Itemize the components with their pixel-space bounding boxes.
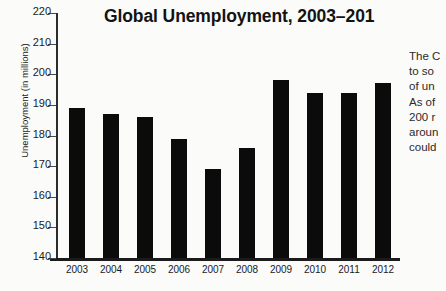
x-tick-label: 2012 [366, 264, 400, 275]
bar-2007 [205, 169, 221, 258]
bar-slot [332, 13, 366, 258]
x-tick-label: 2008 [230, 264, 264, 275]
y-axis-label: Unemployment (in millions) [19, 21, 30, 181]
y-tick-label: 180 [33, 128, 51, 140]
side-note-line: aroun [409, 125, 446, 140]
y-tick-label: 200 [33, 66, 51, 78]
bar-2011 [341, 93, 357, 258]
plot-area: 220210200190180170160150140 200320042005… [56, 13, 400, 258]
bar-slot [230, 13, 264, 258]
bar-slot [196, 13, 230, 258]
side-note-line: could [409, 140, 446, 155]
x-tick-label: 2011 [332, 264, 366, 275]
y-tick-label: 150 [33, 219, 51, 231]
side-note-line: The C [409, 49, 446, 64]
x-tick-label: 2009 [264, 264, 298, 275]
bar-slot [366, 13, 400, 258]
bar-slot [162, 13, 196, 258]
x-tick-label: 2003 [60, 264, 94, 275]
x-tick-label: 2005 [128, 264, 162, 275]
bar-2005 [137, 117, 153, 258]
x-tick-label: 2004 [94, 264, 128, 275]
bar-slot [264, 13, 298, 258]
bar-2008 [239, 148, 255, 258]
y-tick-label: 160 [33, 189, 51, 201]
bar-2004 [103, 114, 119, 258]
bar-2012 [375, 83, 391, 258]
bar-2003 [69, 108, 85, 258]
bar-series [56, 13, 400, 258]
y-tick-label: 220 [33, 5, 51, 17]
side-note-line: of un [409, 79, 446, 94]
bar-slot [128, 13, 162, 258]
x-axis-line [50, 258, 400, 261]
side-note-line: As of [409, 95, 446, 110]
side-note-text: The Cto soof unAs of200 rarouncould [409, 49, 446, 155]
y-tick-label: 190 [33, 97, 51, 109]
y-tick: 140 [56, 258, 57, 259]
x-tick-label: 2006 [162, 264, 196, 275]
x-tick-label: 2007 [196, 264, 230, 275]
y-tick-label: 170 [33, 158, 51, 170]
bar-slot [94, 13, 128, 258]
y-tick-label: 210 [33, 36, 51, 48]
side-note-line: to so [409, 64, 446, 79]
bar-slot [298, 13, 332, 258]
chart-figure: Global Unemployment, 2003–201 Unemployme… [0, 0, 446, 291]
bar-slot [60, 13, 94, 258]
y-tick-label: 140 [33, 250, 51, 262]
side-note-line: 200 r [409, 110, 446, 125]
bar-2006 [171, 139, 187, 258]
bar-2010 [307, 93, 323, 258]
bar-2009 [273, 80, 289, 258]
x-tick-label: 2010 [298, 264, 332, 275]
